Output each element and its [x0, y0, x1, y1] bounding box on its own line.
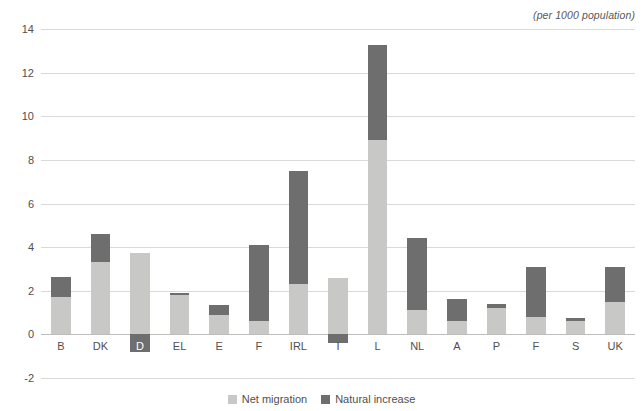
bar-group — [209, 29, 229, 378]
x-axis-label-f-12: F — [516, 340, 556, 352]
migration-stacked-bar-chart: (per 1000 population) 14121086420-2 BDKD… — [0, 0, 643, 411]
bar-group — [368, 29, 388, 378]
bars-group — [41, 29, 635, 378]
bar-segment-net-migration — [487, 308, 507, 334]
bar-segment-net-migration — [249, 321, 269, 334]
legend-swatch-net-migration-icon — [228, 395, 237, 404]
x-axis-label-irl-6: IRL — [279, 340, 319, 352]
bar-segment-net-migration — [566, 321, 586, 334]
bar-group — [605, 29, 625, 378]
bar-segment-natural-increase — [605, 267, 625, 302]
bar-segment-natural-increase — [407, 238, 427, 310]
y-tick-label: 14 — [0, 23, 34, 35]
y-tick-label: 12 — [0, 67, 34, 79]
bar-group — [170, 29, 190, 378]
bar-segment-natural-increase — [447, 299, 467, 321]
x-axis-label-el-3: EL — [160, 340, 200, 352]
y-tick-label: 6 — [0, 198, 34, 210]
bar-group — [328, 29, 348, 378]
bar-segment-net-migration — [91, 262, 111, 334]
bar-segment-net-migration — [526, 317, 546, 334]
bar-segment-natural-increase — [289, 171, 309, 284]
units-annotation: (per 1000 population) — [533, 9, 635, 21]
bar-segment-net-migration — [407, 310, 427, 334]
bar-segment-net-migration — [170, 295, 190, 334]
bar-group — [91, 29, 111, 378]
bar-group — [407, 29, 427, 378]
x-axis-label-e-4: E — [199, 340, 239, 352]
bar-segment-net-migration — [605, 302, 625, 335]
legend-item-natural-increase: Natural increase — [321, 393, 415, 405]
bar-segment-natural-increase — [368, 45, 388, 140]
y-tick-label: -2 — [0, 372, 34, 384]
x-axis-label-f-5: F — [239, 340, 279, 352]
legend-label-natural-increase: Natural increase — [335, 393, 415, 405]
legend-swatch-natural-increase-icon — [321, 395, 330, 404]
x-axis-label-i-7: I — [318, 340, 358, 352]
bar-segment-natural-increase — [91, 234, 111, 262]
bar-group — [566, 29, 586, 378]
bar-segment-natural-increase — [566, 318, 586, 321]
x-axis-label-uk-14: UK — [595, 340, 635, 352]
y-tick-label: 2 — [0, 285, 34, 297]
x-axis-label-p-11: P — [477, 340, 517, 352]
bar-group — [130, 29, 150, 378]
legend-label-net-migration: Net migration — [242, 393, 307, 405]
bar-segment-net-migration — [289, 284, 309, 334]
bar-segment-net-migration — [130, 253, 150, 335]
bar-group — [51, 29, 71, 378]
bar-segment-net-migration — [447, 321, 467, 334]
bar-group — [487, 29, 507, 378]
y-tick-label: 8 — [0, 154, 34, 166]
gridline-neg2 — [41, 378, 635, 379]
plot-area — [41, 29, 635, 378]
bar-segment-net-migration — [368, 140, 388, 334]
x-axis-label-a-10: A — [437, 340, 477, 352]
y-tick-label: 10 — [0, 110, 34, 122]
legend-item-net-migration: Net migration — [228, 393, 307, 405]
bar-group — [447, 29, 467, 378]
bar-group — [289, 29, 309, 378]
bar-segment-natural-increase — [526, 267, 546, 317]
y-tick-label: 0 — [0, 328, 34, 340]
bar-segment-natural-increase — [487, 304, 507, 308]
x-axis-label-b-0: B — [41, 340, 81, 352]
bar-segment-net-migration — [51, 297, 71, 334]
bar-group — [526, 29, 546, 378]
x-axis-label-nl-9: NL — [397, 340, 437, 352]
bar-segment-natural-increase — [51, 277, 71, 298]
bar-segment-net-migration — [328, 278, 348, 335]
bar-segment-net-migration — [209, 315, 229, 335]
x-axis-label-l-8: L — [358, 340, 398, 352]
x-axis-label-s-13: S — [556, 340, 596, 352]
x-axis-label-d-2: D — [120, 340, 160, 352]
y-tick-label: 4 — [0, 241, 34, 253]
bar-group — [249, 29, 269, 378]
x-axis-label-dk-1: DK — [81, 340, 121, 352]
chart-legend: Net migration Natural increase — [0, 393, 643, 405]
bar-segment-natural-increase — [209, 305, 229, 315]
bar-segment-natural-increase — [170, 293, 190, 295]
bar-segment-natural-increase — [249, 245, 269, 321]
